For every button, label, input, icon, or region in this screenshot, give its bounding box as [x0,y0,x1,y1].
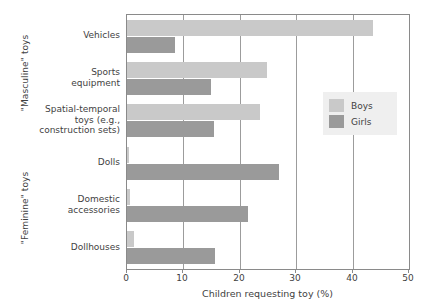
bar-boys-4 [127,189,130,205]
gridline [353,15,354,269]
category-label-line: Sports [8,67,120,78]
x-tick-label: 40 [346,273,357,283]
bar-girls-3 [127,164,279,180]
category-label-line: accessories [8,205,120,216]
category-label-5: Dollhouses [8,242,126,253]
legend-item-boys: Boys [329,98,391,113]
category-label-line: Dollhouses [8,242,120,253]
category-label-line: Spatial-temporal [8,104,120,115]
category-label-line: Vehicles [8,30,120,41]
x-axis: 01020304050 [126,269,409,289]
x-axis-title: Children requesting toy (%) [126,288,409,299]
category-label-line: Domestic [8,194,120,205]
gridline [296,15,297,269]
chart-legend: BoysGirls [323,92,397,135]
legend-swatch-boys [329,99,344,112]
bar-girls-5 [127,248,215,264]
x-tick-label: 10 [176,273,187,283]
x-tick-label: 50 [402,273,413,283]
plot-inner [127,15,409,269]
bar-girls-4 [127,206,248,222]
bar-boys-3 [127,147,129,163]
bar-girls-0 [127,37,175,53]
legend-label-boys: Boys [351,101,373,111]
legend-label-girls: Girls [351,117,371,127]
category-label-line: equipment [8,78,120,89]
legend-swatch-girls [329,115,344,128]
x-tick-label: 30 [289,273,300,283]
plot-area [126,14,410,270]
category-label-line: toys (e.g., [8,115,120,126]
x-tick-label: 20 [233,273,244,283]
category-label-line: construction sets) [8,125,120,136]
bar-boys-2 [127,104,260,120]
category-label-1: Sportsequipment [8,67,126,88]
bar-girls-1 [127,79,211,95]
bar-boys-0 [127,20,373,36]
bar-boys-1 [127,62,267,78]
category-label-2: Spatial-temporaltoys (e.g.,construction … [8,104,126,136]
bar-chart-figure: "Masculine" toys "Feminine" toys Vehicle… [0,0,424,307]
category-axis-labels: VehiclesSportsequipmentSpatial-temporalt… [0,0,126,307]
bar-boys-5 [127,231,134,247]
category-label-3: Dolls [8,157,126,168]
x-tick-label: 0 [123,273,129,283]
gridline [183,15,184,269]
legend-item-girls: Girls [329,114,391,129]
bar-girls-2 [127,121,214,137]
category-label-line: Dolls [8,157,120,168]
gridline [240,15,241,269]
category-label-4: Domesticaccessories [8,194,126,215]
category-label-0: Vehicles [8,30,126,41]
